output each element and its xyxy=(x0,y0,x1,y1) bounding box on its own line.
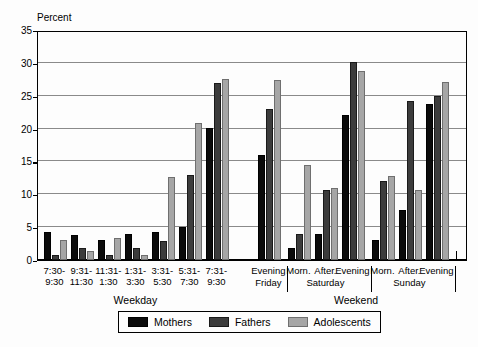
gridline-25 xyxy=(38,95,466,96)
bar xyxy=(125,234,132,260)
bar xyxy=(52,255,59,260)
bar xyxy=(206,128,213,260)
legend-swatch xyxy=(288,317,308,327)
x-tick-label: Evening xyxy=(406,265,466,276)
bar xyxy=(350,62,357,260)
gridline-30 xyxy=(38,62,466,63)
group-separator xyxy=(288,251,289,260)
bar xyxy=(304,165,311,260)
bar xyxy=(141,255,148,260)
axis-separator-tick xyxy=(455,266,456,292)
plot-area xyxy=(37,31,467,261)
bar xyxy=(274,80,281,260)
gridline-15 xyxy=(38,160,466,161)
bar xyxy=(258,155,265,260)
bar xyxy=(415,190,422,260)
bar xyxy=(315,234,322,260)
bar xyxy=(380,181,387,261)
chart-legend: MothersFathersAdolescents xyxy=(118,311,381,333)
bar xyxy=(60,240,67,260)
bar xyxy=(98,240,105,260)
bar xyxy=(152,232,159,260)
legend-swatch xyxy=(128,317,148,327)
bar xyxy=(114,238,121,260)
bar xyxy=(179,227,186,260)
y-tick-label-5: 5 xyxy=(0,223,32,233)
y-tick-mark-15 xyxy=(33,162,37,163)
legend-item: Mothers xyxy=(128,317,192,328)
y-tick-label-30: 30 xyxy=(0,59,32,69)
y-tick-mark-10 xyxy=(33,195,37,196)
bar xyxy=(87,251,94,260)
bar xyxy=(296,234,303,260)
bar xyxy=(160,241,167,260)
bar xyxy=(222,79,229,260)
y-tick-label-10: 10 xyxy=(0,190,32,200)
group-separator xyxy=(456,251,457,260)
y-tick-label-35: 35 xyxy=(0,26,32,36)
bar xyxy=(323,190,330,260)
y-tick-mark-20 xyxy=(33,130,37,131)
y-tick-mark-30 xyxy=(33,64,37,65)
y-tick-mark-25 xyxy=(33,97,37,98)
gridline-20 xyxy=(38,128,466,129)
x-axis-day-label: Saturday xyxy=(285,277,365,288)
bar xyxy=(358,71,365,260)
legend-label: Adolescents xyxy=(314,317,371,328)
bar xyxy=(426,104,433,260)
bar xyxy=(106,255,113,260)
legend-label: Mothers xyxy=(154,317,192,328)
y-tick-label-15: 15 xyxy=(0,157,32,167)
bar xyxy=(168,177,175,260)
legend-swatch xyxy=(209,317,229,327)
bar xyxy=(133,248,140,260)
bar xyxy=(71,235,78,260)
bar xyxy=(44,232,51,260)
y-tick-mark-0 xyxy=(33,261,37,262)
bar xyxy=(399,210,406,260)
y-tick-label-20: 20 xyxy=(0,125,32,135)
bar xyxy=(187,175,194,260)
bar xyxy=(407,101,414,260)
bar xyxy=(342,115,349,260)
legend-item: Adolescents xyxy=(288,317,371,328)
bar xyxy=(195,123,202,260)
y-tick-mark-35 xyxy=(33,31,37,32)
bar xyxy=(331,188,338,260)
chart-figure: Percent 05101520253035 7:30-9:309:31-11:… xyxy=(0,0,478,347)
x-axis-section-label: Weekday xyxy=(75,294,195,306)
group-separator xyxy=(372,251,373,260)
gridline-10 xyxy=(38,193,466,194)
y-tick-mark-5 xyxy=(33,228,37,229)
bar xyxy=(266,109,273,260)
bar xyxy=(79,248,86,260)
x-axis-day-label: Sunday xyxy=(369,277,449,288)
legend-label: Fathers xyxy=(235,317,271,328)
legend-item: Fathers xyxy=(209,317,271,328)
bar xyxy=(434,96,441,260)
bar xyxy=(388,176,395,260)
y-tick-label-25: 25 xyxy=(0,92,32,102)
y-axis-title: Percent xyxy=(37,12,71,23)
bar xyxy=(214,83,221,260)
bar xyxy=(442,82,449,260)
x-axis-section-label: Weekend xyxy=(296,294,416,306)
